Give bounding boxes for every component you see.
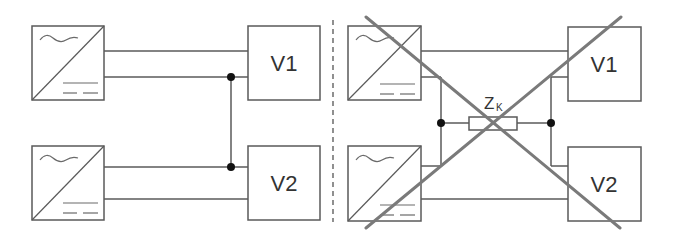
load-v1-right: V1 — [568, 27, 641, 101]
junction-dot — [227, 73, 235, 81]
cross-out-icon — [366, 17, 621, 228]
converter-bottom-left — [32, 146, 104, 220]
left-panel: V1 V2 — [32, 26, 320, 220]
load-label: V1 — [271, 51, 298, 76]
converter-bottom-right — [348, 146, 421, 221]
circuit-diagram: V1 V2 — [0, 0, 675, 234]
junction-dot — [547, 119, 555, 127]
junction-dot — [227, 163, 235, 171]
load-label: V2 — [591, 172, 618, 197]
load-label: V2 — [271, 171, 298, 196]
converter-top-left — [32, 26, 104, 100]
junction-dot — [437, 119, 445, 127]
load-v2-right: V2 — [568, 147, 641, 221]
load-label: V1 — [591, 52, 618, 77]
load-v1-left: V1 — [248, 26, 320, 100]
converter-top-right — [348, 26, 421, 100]
impedance-subscript: K — [496, 102, 503, 113]
impedance-label: Z — [484, 94, 494, 113]
right-panel: Z K V1 V2 — [348, 17, 641, 228]
load-v2-left: V2 — [248, 146, 320, 220]
